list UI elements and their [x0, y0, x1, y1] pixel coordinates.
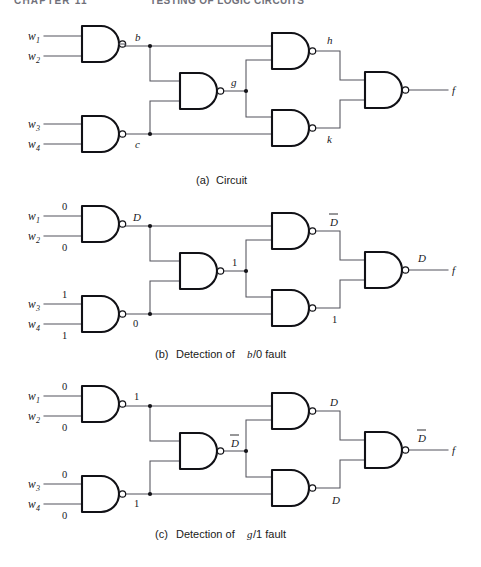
input-sub-w1: 1	[36, 396, 40, 405]
net-value-k: D	[331, 494, 340, 506]
wire-c-to-mid	[150, 281, 180, 314]
input-label-w3: w	[28, 118, 36, 130]
caption-c-suffix: /1 fault	[253, 528, 286, 540]
caption-b-suffix: /0 fault	[253, 348, 286, 360]
nand-bubble-k	[309, 125, 315, 131]
input-sub-w3: 3	[35, 484, 40, 493]
caption-b-prefix: (b)	[155, 348, 168, 360]
nand-gate-b	[82, 206, 119, 242]
panel-b-input-labels: w 1 w 2 w 3 w 4	[28, 210, 40, 333]
input-label-w1: w	[28, 210, 36, 222]
net-value-b: 1	[134, 391, 139, 402]
wire-h-to-out	[315, 411, 365, 440]
net-value-c: 0	[133, 318, 138, 329]
nand-gate-b	[82, 386, 119, 422]
panel-c-input-labels: w 1 w 2 w 3 w 4	[28, 390, 40, 513]
nand-gate-k	[272, 290, 309, 326]
nand-gate-h	[272, 213, 309, 249]
input-label-w4: w	[28, 498, 36, 510]
net-value-b: D	[132, 211, 141, 223]
nand-bubble-c	[119, 131, 125, 137]
input-value-w1: 0	[62, 381, 67, 392]
signal-label-f: f	[452, 444, 457, 456]
input-value-w4: 0	[62, 510, 67, 521]
caption-a-prefix: (a)	[196, 174, 209, 186]
net-value-g-group: D	[230, 435, 239, 449]
wire-k-to-out	[315, 460, 365, 488]
signal-label-f: f	[452, 84, 457, 96]
input-value-w4: 1	[62, 330, 67, 341]
net-value-k: 1	[332, 314, 337, 325]
nand-gate-f	[365, 252, 402, 288]
net-value-f: D	[417, 432, 426, 444]
signal-label-c: c	[135, 138, 140, 150]
nand-gate-g	[180, 433, 217, 469]
input-sub-w4: 4	[36, 144, 40, 153]
wire-g-to-h	[246, 420, 272, 451]
net-value-f-group: D	[417, 430, 426, 444]
junction-b	[148, 224, 152, 228]
input-sub-w3: 3	[35, 304, 40, 313]
input-label-w4: w	[28, 138, 36, 150]
panel-c: w 1 w 2 w 3 w 4 0 0 0 0	[28, 381, 457, 540]
input-sub-w4: 4	[36, 504, 40, 513]
wire-g-to-k	[246, 451, 272, 477]
panel-b-input-values: 0 0 1 1	[62, 201, 67, 341]
input-value-w3: 1	[62, 289, 67, 300]
wire-g-to-h	[246, 60, 272, 91]
input-sub-w3: 3	[35, 124, 40, 133]
nand-gate-f	[365, 432, 402, 468]
nand-gate-k	[272, 110, 309, 146]
nand-gate-c	[82, 476, 119, 512]
wire-b-to-mid	[150, 226, 180, 261]
input-value-w2: 0	[62, 422, 67, 433]
input-value-w1: 0	[62, 201, 67, 212]
figure-nand-fault-detection: w 1 w 2 w 3 w 4	[0, 0, 481, 567]
panel-a-caption: (a) Circuit	[196, 174, 247, 186]
wire-g-to-k	[246, 271, 272, 297]
wire-h-to-out	[315, 51, 365, 80]
wire-b-to-mid	[150, 406, 180, 441]
panel-a-input-labels: w 1 w 2 w 3 w 4	[28, 30, 40, 153]
signal-label-b: b	[135, 31, 141, 43]
nand-bubble-b	[119, 401, 125, 407]
caption-b-text: Detection of	[176, 348, 236, 360]
nand-bubble-h	[309, 228, 315, 234]
nand-gate-k	[272, 470, 309, 506]
nand-bubble-g	[217, 268, 223, 274]
junction-g	[244, 449, 248, 453]
input-label-w1: w	[28, 390, 36, 402]
signal-label-g: g	[231, 76, 237, 88]
panel-b-gates	[82, 206, 409, 332]
input-sub-w2: 2	[36, 236, 40, 245]
net-value-g: D	[230, 437, 239, 449]
nand-bubble-f	[402, 447, 408, 453]
nand-bubble-k	[309, 305, 315, 311]
net-value-f: D	[417, 252, 426, 264]
panel-c-caption: (c) Detection of g /1 fault	[155, 528, 286, 540]
panel-a: w 1 w 2 w 3 w 4	[28, 26, 457, 186]
nand-bubble-c	[119, 491, 125, 497]
input-label-w2: w	[28, 50, 36, 62]
junction-g	[244, 269, 248, 273]
net-value-h-group: D	[329, 214, 338, 228]
wire-g-to-k	[246, 91, 272, 117]
signal-label-f: f	[452, 264, 457, 276]
nand-bubble-h	[309, 408, 315, 414]
caption-a-text: Circuit	[216, 174, 247, 186]
junction-b	[148, 404, 152, 408]
wire-b-to-mid	[150, 46, 180, 81]
nand-gate-b	[82, 26, 119, 62]
nand-gate-g	[180, 253, 217, 289]
net-value-g: 1	[232, 257, 237, 268]
nand-bubble-c	[119, 311, 125, 317]
net-value-h: D	[329, 216, 338, 228]
input-sub-w2: 2	[36, 416, 40, 425]
panel-a-gates	[82, 26, 409, 152]
signal-label-h: h	[327, 34, 333, 46]
caption-c-prefix: (c)	[155, 528, 168, 540]
nand-bubble-k	[309, 485, 315, 491]
nand-gate-h	[272, 393, 309, 429]
wire-c-to-mid	[150, 461, 180, 494]
wire-k-to-out	[315, 280, 365, 308]
